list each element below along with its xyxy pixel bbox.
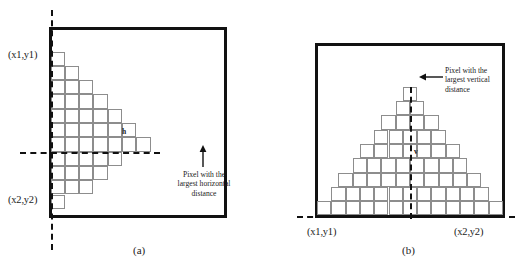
- pixel-cell: [51, 123, 65, 137]
- pixel-cell: [417, 144, 431, 158]
- pixel-cell: [446, 144, 460, 158]
- pixel-cell: [317, 201, 331, 215]
- pixel-cell: [474, 201, 488, 215]
- panel-b-annotation-line1: Pixel with the: [445, 66, 523, 75]
- figure-container: (x1,y1) (x2,y2) h Pixel with the largest…: [0, 0, 523, 271]
- pixel-cell: [431, 130, 445, 144]
- pixel-cell: [65, 166, 79, 180]
- pixel-cell: [51, 66, 65, 80]
- pixel-cell: [453, 158, 467, 172]
- pixel-cell: [108, 152, 122, 166]
- pixel-cell: [51, 195, 65, 209]
- pixel-cell: [389, 144, 403, 158]
- pixel-cell: [346, 201, 360, 215]
- pixel-cell: [79, 180, 93, 194]
- pixel-cell: [65, 109, 79, 123]
- panel-a-annotation-line2: largest horizontal: [158, 179, 250, 188]
- pixel-cell: [460, 201, 474, 215]
- pixel-cell: [424, 115, 438, 129]
- pixel-cell: [331, 187, 345, 201]
- pixel-cell: [374, 130, 388, 144]
- panel-b-annotation: Pixel with the largest vertical distance: [445, 66, 523, 94]
- panel-a-arrow-up-icon: [196, 145, 210, 167]
- panel-a-horizontal-dashed-line: [20, 152, 160, 154]
- pixel-cell: [417, 187, 431, 201]
- pixel-cell: [374, 187, 388, 201]
- pixel-cell: [51, 137, 65, 151]
- pixel-cell: [108, 123, 122, 137]
- pixel-cell: [431, 201, 445, 215]
- pixel-cell: [353, 158, 367, 172]
- pixel-cell: [431, 144, 445, 158]
- panel-a-annotation: Pixel with the largest horizontal distan…: [158, 170, 250, 198]
- pixel-cell: [122, 137, 136, 151]
- pixel-cell: [381, 115, 395, 129]
- pixel-cell: [65, 94, 79, 108]
- pixel-cell: [51, 180, 65, 194]
- panel-b-coord-right: (x2,y2): [454, 227, 483, 238]
- pixel-cell: [360, 144, 374, 158]
- pixel-cell: [51, 80, 65, 94]
- pixel-cell: [374, 144, 388, 158]
- pixel-cell: [65, 152, 79, 166]
- pixel-cell: [65, 137, 79, 151]
- panel-a-caption: (a): [133, 245, 145, 256]
- pixel-cell: [346, 187, 360, 201]
- pixel-cell: [51, 152, 65, 166]
- pixel-cell: [424, 158, 438, 172]
- pixel-cell: [331, 201, 345, 215]
- pixel-cell: [79, 166, 93, 180]
- pixel-cell: [446, 201, 460, 215]
- pixel-cell: [93, 94, 107, 108]
- pixel-cell: [51, 52, 65, 66]
- pixel-cell: [93, 109, 107, 123]
- panel-b-arrow-left-icon: [419, 71, 443, 83]
- panel-a-distance-label: h: [122, 128, 126, 136]
- pixel-cell: [381, 158, 395, 172]
- pixel-cell: [79, 80, 93, 94]
- panel-a: (x1,y1) (x2,y2) h Pixel with the largest…: [0, 0, 261, 271]
- pixel-cell: [65, 180, 79, 194]
- panel-b-distance-label: v: [414, 148, 418, 156]
- pixel-cell: [51, 94, 65, 108]
- pixel-cell: [65, 123, 79, 137]
- pixel-cell: [79, 137, 93, 151]
- pixel-cell: [474, 187, 488, 201]
- pixel-cell: [79, 152, 93, 166]
- pixel-cell: [93, 152, 107, 166]
- panel-a-coord-bottom: (x2,y2): [8, 195, 37, 206]
- panel-b-annotation-line2: largest vertical: [445, 75, 523, 84]
- pixel-cell: [65, 66, 79, 80]
- pixel-cell: [374, 201, 388, 215]
- pixel-cell: [353, 173, 367, 187]
- pixel-cell: [453, 173, 467, 187]
- pixel-cell: [108, 137, 122, 151]
- pixel-cell: [136, 137, 150, 151]
- pixel-cell: [93, 137, 107, 151]
- pixel-cell: [367, 158, 381, 172]
- panel-a-coord-top: (x1,y1): [8, 50, 37, 61]
- panel-a-vertical-dashed-line: [51, 10, 53, 250]
- panel-b-coord-left: (x1,y1): [307, 227, 336, 238]
- pixel-cell: [396, 173, 410, 187]
- pixel-cell: [467, 173, 481, 187]
- pixel-cell: [396, 101, 410, 115]
- panel-a-annotation-line1: Pixel with the: [158, 170, 250, 179]
- pixel-cell: [389, 130, 403, 144]
- pixel-cell: [410, 101, 424, 115]
- pixel-cell: [489, 201, 503, 215]
- pixel-cell: [51, 109, 65, 123]
- pixel-cell: [417, 201, 431, 215]
- pixel-cell: [410, 115, 424, 129]
- pixel-cell: [431, 187, 445, 201]
- pixel-cell: [93, 123, 107, 137]
- pixel-cell: [93, 166, 107, 180]
- panel-a-annotation-line3: distance: [158, 189, 250, 198]
- pixel-cell: [381, 173, 395, 187]
- panel-b-annotation-line3: distance: [445, 85, 523, 94]
- pixel-cell: [446, 187, 460, 201]
- pixel-cell: [79, 123, 93, 137]
- panel-b: v Pixel with the largest vertical distan…: [261, 0, 522, 271]
- pixel-cell: [439, 158, 453, 172]
- pixel-cell: [460, 187, 474, 201]
